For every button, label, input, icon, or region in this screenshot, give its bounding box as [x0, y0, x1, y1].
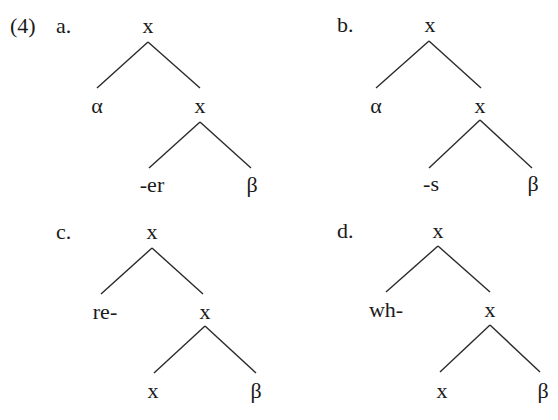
right-left-node: -er — [140, 174, 164, 196]
tree-c-edges — [101, 248, 256, 373]
right-node: x — [475, 95, 486, 117]
left-node: re- — [93, 301, 117, 323]
right-left-node: -s — [423, 173, 439, 195]
example-number: (4) — [10, 15, 36, 37]
tree-edges — [0, 0, 558, 420]
tree-d-edges — [386, 246, 540, 372]
right-right-node: β — [527, 173, 538, 195]
right-right-node: β — [250, 380, 261, 402]
right-node: x — [195, 95, 206, 117]
root-node: x — [143, 15, 154, 37]
right-node: x — [200, 301, 211, 323]
tree-label: b. — [337, 14, 354, 36]
tree-label: a. — [56, 15, 71, 37]
tree-b-edges — [376, 41, 532, 168]
root-node: x — [147, 221, 158, 243]
right-right-node: β — [246, 174, 257, 196]
left-node: wh- — [369, 299, 403, 321]
left-node: α — [370, 95, 382, 117]
right-node: x — [485, 299, 496, 321]
tree-a-edges — [97, 42, 251, 168]
root-node: x — [433, 220, 444, 242]
right-left-node: x — [148, 380, 159, 402]
right-right-node: β — [537, 380, 548, 402]
tree-label: d. — [337, 220, 354, 242]
right-left-node: x — [437, 380, 448, 402]
left-node: α — [91, 95, 103, 117]
tree-label: c. — [56, 221, 71, 243]
root-node: x — [425, 14, 436, 36]
